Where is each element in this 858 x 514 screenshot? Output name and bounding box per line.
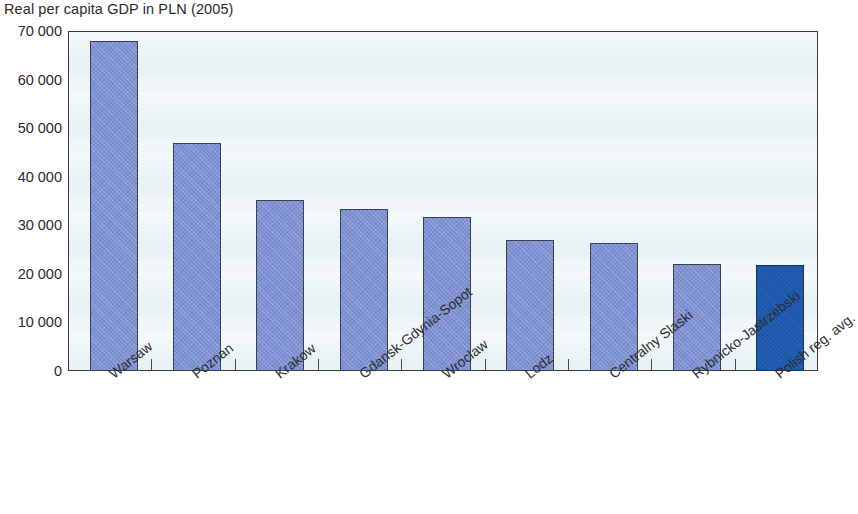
x-axis-tick — [568, 359, 569, 371]
y-axis-labels: 010 00020 00030 00040 00050 00060 00070 … — [0, 31, 62, 371]
y-axis-tick-label: 50 000 — [0, 121, 62, 136]
y-axis-tick-label: 70 000 — [0, 24, 62, 39]
y-axis-tick-label: 40 000 — [0, 170, 62, 185]
x-axis-tick — [401, 359, 402, 371]
x-axis-tick — [318, 359, 319, 371]
x-axis-tick — [735, 359, 736, 371]
bar-warsaw — [90, 41, 138, 371]
y-axis-tick-label: 10 000 — [0, 315, 62, 330]
y-axis-tick-label: 20 000 — [0, 267, 62, 282]
x-axis-tick — [485, 359, 486, 371]
y-axis-tick-label: 60 000 — [0, 73, 62, 88]
chart-title: Real per capita GDP in PLN (2005) — [4, 1, 234, 18]
y-axis-tick-label: 30 000 — [0, 218, 62, 233]
x-axis-tick — [651, 359, 652, 371]
bar-poznan — [173, 143, 221, 371]
x-axis-labels: WarsawPoznanKrakowGdansk-Gdynia-SopotWro… — [0, 371, 835, 514]
x-axis-tick — [235, 359, 236, 371]
x-axis-tick — [151, 359, 152, 371]
